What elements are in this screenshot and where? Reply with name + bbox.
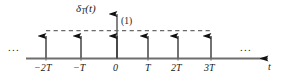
- impulse-train-figure: δT(t) (1) ... ... −2T −T 0 T 2T 3T t: [0, 0, 285, 81]
- signal-label-argument: (t): [85, 2, 95, 14]
- tick-label-2T: 2T: [171, 63, 182, 73]
- amplitude-annotation: (1): [121, 17, 132, 27]
- tick-label-negT: −T: [73, 63, 86, 73]
- ellipsis-right: ...: [240, 42, 252, 53]
- x-axis-label: t: [268, 62, 271, 72]
- signal-label: δT(t): [76, 3, 96, 16]
- tick-label-T: T: [145, 63, 151, 73]
- tick-label-3T: 3T: [204, 63, 215, 73]
- tick-label-zero: 0: [113, 63, 118, 73]
- ellipsis-left: ...: [8, 42, 20, 53]
- impulse-group: [46, 36, 211, 59]
- tick-label-neg2T: −2T: [34, 63, 52, 73]
